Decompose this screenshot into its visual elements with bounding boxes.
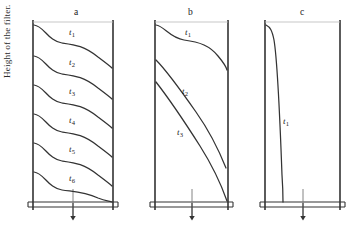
figure-root: Height of the filter. at1t2t3t4t5t6bt1t2… (0, 0, 362, 230)
curve-label-a-t5: t5 (69, 144, 75, 154)
panel-title-c: c (300, 7, 304, 17)
curve-label-b-t2: t2 (182, 86, 188, 96)
curve-label-b-t3: t3 (177, 127, 183, 137)
curve-label-a-t1: t1 (69, 27, 75, 37)
panel-c (260, 20, 345, 218)
curve-b-t3 (156, 82, 227, 201)
curve-label-a-t6: t6 (69, 173, 75, 183)
curve-label-a-t4: t4 (69, 115, 75, 125)
panel-title-a: a (74, 7, 78, 17)
panel-b (150, 20, 233, 218)
curve-c-t1 (266, 25, 283, 202)
panel-title-b: b (188, 7, 193, 17)
curve-label-c-t1: t1 (283, 116, 289, 126)
curve-label-a-t3: t3 (69, 86, 75, 96)
curve-b-t1 (156, 25, 227, 70)
filter-column-diagram (0, 0, 362, 230)
curve-b-t2 (156, 60, 226, 168)
curve-label-b-t1: t1 (185, 27, 191, 37)
curve-label-a-t2: t2 (69, 57, 75, 67)
